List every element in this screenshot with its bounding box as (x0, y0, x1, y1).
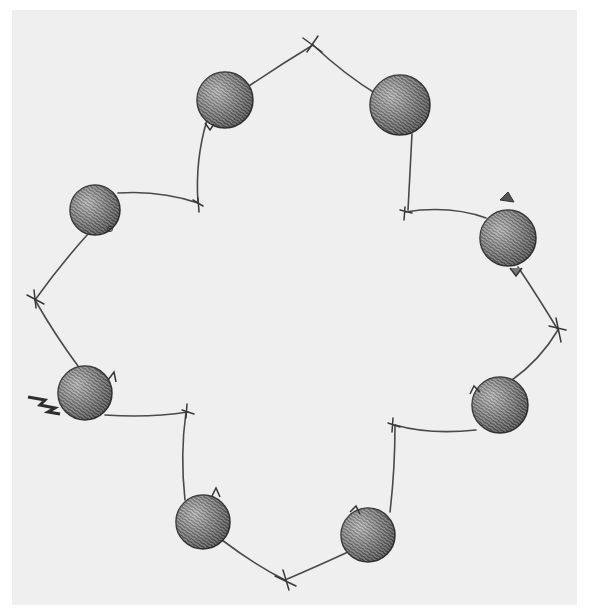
pod-left (70, 185, 120, 235)
joint-bottom (275, 570, 296, 590)
pods (28, 72, 536, 562)
pod-right (480, 192, 536, 276)
pod-lower-left (28, 366, 116, 420)
stems (35, 45, 558, 580)
pod-top-right (370, 75, 430, 135)
sketch-canvas (0, 0, 589, 614)
pod-lower-right (470, 377, 528, 433)
knee-ticks (182, 198, 412, 432)
pod-bottom-right (341, 506, 395, 562)
joint-left (27, 290, 44, 308)
pod-ring-drawing (0, 0, 589, 614)
pod-top-left (197, 72, 253, 130)
joints (27, 36, 566, 590)
